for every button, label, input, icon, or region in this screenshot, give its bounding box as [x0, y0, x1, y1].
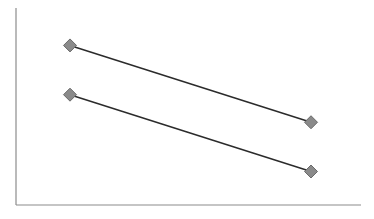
series-2: [64, 88, 318, 178]
series-line: [70, 95, 311, 172]
diamond-marker-icon: [305, 116, 318, 129]
line-chart: [0, 0, 374, 219]
series-1: [64, 39, 318, 129]
diamond-marker-icon: [64, 88, 77, 101]
series-group: [64, 39, 318, 178]
diamond-marker-icon: [305, 165, 318, 178]
series-line: [70, 45, 311, 122]
diamond-marker-icon: [64, 39, 77, 52]
